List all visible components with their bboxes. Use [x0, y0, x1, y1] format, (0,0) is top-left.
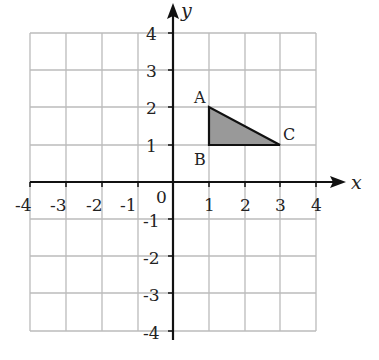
y-tick-label: 2	[146, 98, 157, 118]
y-axis-label: y	[180, 0, 192, 21]
y-tick-label: 1	[146, 136, 157, 156]
x-tick-label: -4	[15, 195, 32, 215]
x-tick-label: 1	[204, 195, 215, 215]
y-tick-label: -3	[143, 285, 160, 305]
x-tick-label: 2	[240, 195, 251, 215]
origin-label: 0	[156, 187, 167, 207]
x-tick-label: 4	[311, 195, 322, 215]
coordinate-plane: y x 4 3 2 1 -1 -2 -3 -4 0 -4 -3 -2 -1 1 …	[0, 0, 379, 360]
y-axis	[167, 3, 179, 340]
vertex-label-c: C	[283, 125, 295, 144]
x-axis	[30, 176, 346, 188]
y-tick-label: 4	[146, 24, 157, 44]
y-tick-label: 3	[146, 61, 157, 81]
x-axis-label: x	[351, 171, 362, 193]
x-tick-label: 3	[275, 195, 286, 215]
x-tick-label: -3	[50, 195, 67, 215]
vertex-label-a: A	[193, 88, 206, 107]
y-tick-label: -1	[143, 211, 160, 231]
x-tick-label: -1	[120, 195, 137, 215]
y-tick-label: -4	[143, 323, 160, 343]
vertex-label-b: B	[194, 150, 206, 169]
x-tick-label: -2	[86, 195, 103, 215]
y-tick-label: -2	[143, 248, 160, 268]
